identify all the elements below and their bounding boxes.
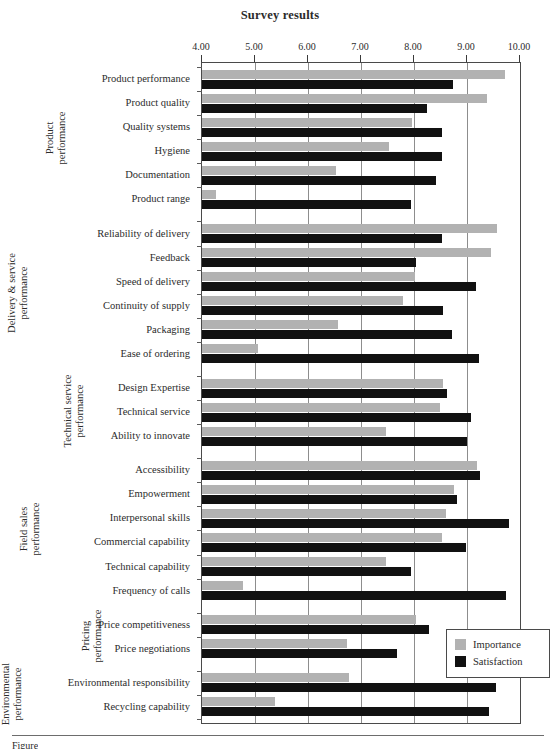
bar-satisfaction [202,495,457,504]
x-axis-tickmark [519,55,520,62]
y-axis-tickmark [197,424,202,425]
group-label-line: Delivery & service [6,253,18,333]
bar-satisfaction [202,471,480,480]
bar-satisfaction [202,282,476,291]
bar-satisfaction [202,625,429,634]
group-label-line: performance [74,375,86,448]
bar-importance [202,615,416,624]
bar-importance [202,70,505,79]
group-label-line: performance [18,253,30,333]
y-axis-tickmark [197,376,202,377]
bar-importance [202,533,442,542]
legend-swatch-satisfaction [455,656,466,667]
category-label: Price negotiations [114,642,190,653]
group-label-line: Field sales [18,503,30,556]
bar-importance [202,118,412,127]
y-axis-tickmark [197,221,202,222]
y-axis-tickmark [197,318,202,319]
bar-satisfaction [202,200,411,209]
legend-item-importance: Importance [455,636,541,653]
category-label: Reliability of delivery [97,227,190,238]
bar-satisfaction [202,80,453,89]
bar-satisfaction [202,330,452,339]
gridline [467,63,468,723]
bar-satisfaction [202,152,442,161]
bar-satisfaction [202,567,411,576]
y-axis-tickmark [197,139,202,140]
bar-importance [202,248,491,257]
category-label: Speed of delivery [116,275,190,286]
bar-importance [202,142,389,151]
category-label: Ability to innovate [111,430,190,441]
plot-area [201,62,521,724]
bar-satisfaction [202,389,447,398]
category-label: Interpersonal skills [110,512,190,523]
bar-importance [202,581,243,590]
bar-satisfaction [202,234,442,243]
y-axis-tickmark [197,67,202,68]
bar-satisfaction [202,306,443,315]
y-axis-tickmark [197,91,202,92]
y-axis-tickmark [197,458,202,459]
group-label-line: performance [12,663,24,725]
x-axis-tick-label: 6.00 [298,41,316,52]
group-label-line: Environmental [0,663,12,725]
bar-importance [202,403,440,412]
x-axis-tick-label: 9.00 [457,41,475,52]
group-label-line: performance [30,503,42,556]
category-label: Ease of ordering [121,347,190,358]
y-axis-tickmark [197,506,202,507]
bar-satisfaction [202,176,436,185]
category-label: Product range [131,193,190,204]
y-axis-tickmark [197,719,202,720]
bar-importance [202,190,216,199]
category-label: Quality systems [123,121,190,132]
category-label: Technical capability [105,560,190,571]
legend-swatch-importance [455,639,466,650]
bar-satisfaction [202,128,442,137]
bar-satisfaction [202,104,427,113]
legend-label-importance: Importance [473,639,521,650]
page-title: Survey results [0,8,560,23]
bar-satisfaction [202,258,416,267]
x-axis-tickmark [201,55,202,62]
bar-importance [202,557,386,566]
chart-legend: Importance Satisfaction [446,629,550,678]
category-label: Frequency of calls [112,584,190,595]
group-label-line: performance [56,112,68,165]
bar-importance [202,427,386,436]
y-axis-tickmark [197,482,202,483]
bar-importance [202,344,258,353]
survey-results-figure: Survey results 4.005.006.007.008.009.001… [0,0,560,749]
y-axis-tickmark [197,671,202,672]
bar-satisfaction [202,649,397,658]
bar-importance [202,379,443,388]
bar-importance [202,296,403,305]
x-axis-tickmark [360,55,361,62]
category-label: Hygiene [154,145,190,156]
category-label: Documentation [125,169,190,180]
category-label: Environmental responsibility [68,676,190,687]
group-label-line: Product [44,112,56,165]
bar-importance [202,272,415,281]
y-axis-tickmark [197,530,202,531]
bar-satisfaction [202,354,479,363]
category-label: Product quality [126,97,190,108]
category-label: Price competitiveness [98,618,190,629]
bar-satisfaction [202,591,506,600]
group-label-line: Pricing [80,609,92,662]
legend-item-satisfaction: Satisfaction [455,653,541,670]
y-axis-tickmark [197,342,202,343]
category-label: Commercial capability [94,536,190,547]
category-label: Design Expertise [118,382,190,393]
y-axis-tickmark [197,400,202,401]
x-axis-tick-label: 5.00 [245,41,263,52]
legend-label-satisfaction: Satisfaction [473,656,523,667]
category-label: Continuity of supply [103,299,190,310]
x-axis-tickmark [254,55,255,62]
y-axis-tickmark [197,270,202,271]
bar-importance [202,509,446,518]
category-label: Technical service [117,406,190,417]
y-axis-tickmark [197,163,202,164]
bar-importance [202,697,275,706]
